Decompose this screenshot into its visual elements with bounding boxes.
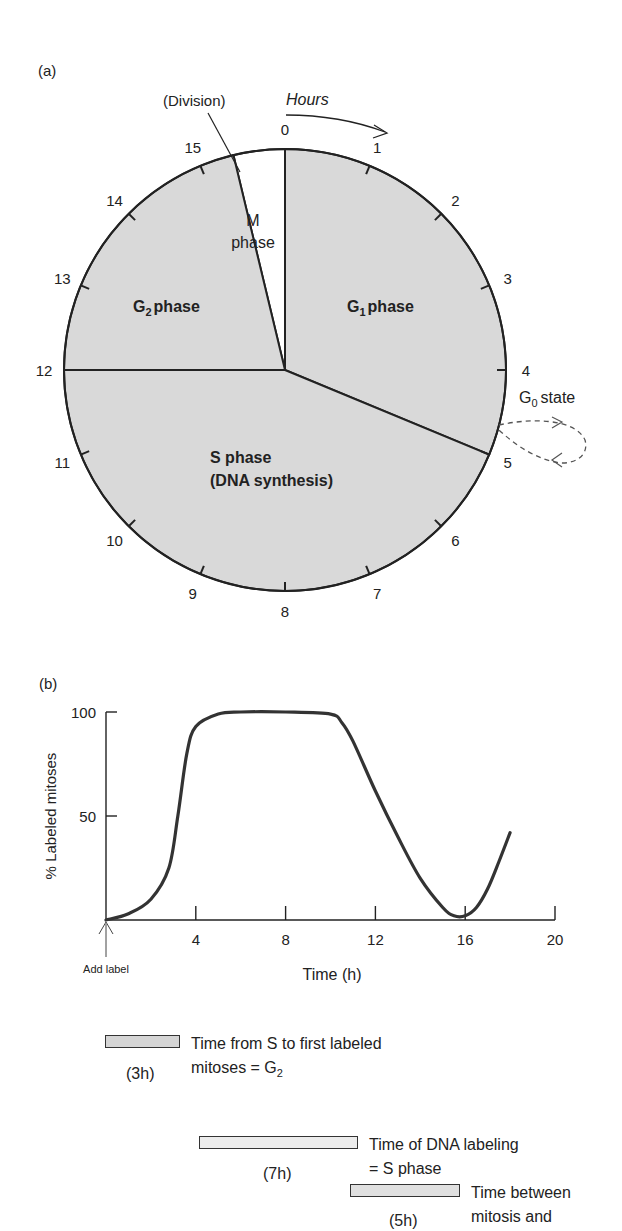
g0-state-label: G0state <box>519 389 575 409</box>
cell-cycle-clock: 0123456789101112131415 <box>36 121 531 620</box>
hour-label-2: 2 <box>451 192 459 209</box>
s-duration: (7h) <box>263 1163 291 1184</box>
hour-label-12: 12 <box>36 362 53 379</box>
x-tick-label-12: 12 <box>367 931 384 948</box>
hour-label-1: 1 <box>373 139 381 156</box>
g2-legend-line1: Time from S to first labeled <box>191 1033 382 1054</box>
g2-duration: (3h) <box>126 1063 154 1084</box>
arrowhead-icon <box>373 125 387 138</box>
s-phase-label-line2: (DNA synthesis) <box>210 472 333 489</box>
g2-legend-line2: mitoses = G2 <box>191 1057 283 1084</box>
arrowhead-icon <box>552 453 562 467</box>
hour-label-4: 4 <box>522 362 530 379</box>
hour-label-6: 6 <box>451 532 459 549</box>
labeled-mitoses-curve <box>106 712 510 920</box>
g1-legend-line1: Time between <box>471 1182 571 1203</box>
y-tick-label-100: 100 <box>71 704 96 721</box>
hour-label-11: 11 <box>55 454 71 471</box>
m-phase-label-line2: phase <box>231 234 275 251</box>
s-duration-bar <box>199 1136 358 1149</box>
labeled-mitoses-plot: 50100 48121620 % Labeled mitoses Time (h… <box>42 704 563 983</box>
hour-label-14: 14 <box>106 192 123 209</box>
add-label-text: Add label <box>83 963 129 975</box>
g0-loop-path <box>499 421 586 463</box>
g1-duration-bar <box>350 1184 460 1197</box>
x-axis-title: Time (h) <box>303 966 362 983</box>
hours-label: Hours <box>286 91 329 108</box>
hour-label-10: 10 <box>106 532 123 549</box>
m-phase-label-line1: M <box>246 212 259 229</box>
s-legend-line1: Time of DNA labeling <box>369 1134 519 1155</box>
x-tick-label-4: 4 <box>192 931 200 948</box>
hour-label-13: 13 <box>54 270 71 287</box>
y-axis-ticks: 50100 <box>71 704 117 825</box>
y-axis-title: % Labeled mitoses <box>42 753 59 880</box>
hours-direction-arrow <box>286 115 385 132</box>
g1-duration: (5h) <box>389 1210 417 1231</box>
s-phase-label-line1: S phase <box>210 449 271 466</box>
hour-label-9: 9 <box>189 585 197 602</box>
hour-label-3: 3 <box>503 270 511 287</box>
hour-label-5: 5 <box>503 454 511 471</box>
g1-legend-line2: mitosis and <box>471 1206 552 1227</box>
panel-b-label: (b) <box>39 675 57 692</box>
panel-a-label: (a) <box>38 62 56 79</box>
s-legend-line2: = S phase <box>369 1158 442 1179</box>
division-label: (Division) <box>163 92 226 109</box>
x-axis-ticks: 48121620 <box>192 906 564 948</box>
x-tick-label-20: 20 <box>547 931 564 948</box>
hour-label-8: 8 <box>281 603 289 620</box>
hour-label-7: 7 <box>373 585 381 602</box>
hour-label-0: 0 <box>281 121 289 138</box>
x-tick-label-8: 8 <box>281 931 289 948</box>
y-tick-label-50: 50 <box>79 808 96 825</box>
x-tick-label-16: 16 <box>457 931 474 948</box>
hour-label-15: 15 <box>184 139 201 156</box>
g2-duration-bar <box>105 1035 180 1048</box>
